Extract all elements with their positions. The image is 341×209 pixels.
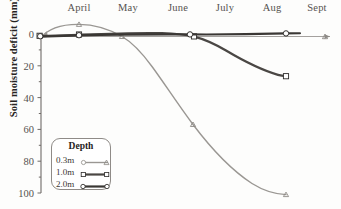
series-markers-0.3m (76, 22, 327, 197)
legend-title: Depth (52, 141, 110, 151)
y-tick-label-100: 100 (10, 188, 34, 199)
x-tick-label-june: June (168, 2, 188, 13)
y-tick-label-20: 20 (16, 60, 34, 71)
soil-moisture-deficit-chart: April May June July Aug Sept 0 20 40 60 … (0, 0, 341, 209)
legend-label-0.3m: 0.3m (56, 155, 80, 165)
series-line-1.0m (40, 33, 286, 76)
y-tick-label-0: 0 (16, 29, 34, 40)
legend-label-2.0m: 2.0m (56, 179, 80, 189)
x-tick-label-may: May (118, 2, 138, 13)
legend-swatch-0.3m (80, 154, 110, 165)
x-tick-label-april: April (67, 2, 90, 13)
legend-swatch-2.0m (80, 178, 110, 189)
legend-swatch-1.0m (80, 166, 110, 177)
legend-item-2.0m[interactable]: 2.0m (56, 178, 110, 189)
legend-label-1.0m: 1.0m (56, 167, 80, 177)
chart-legend: Depth 0.3m 1.0m 2.0m (51, 138, 111, 190)
legend-item-1.0m[interactable]: 1.0m (56, 166, 110, 177)
y-axis-title: Soil moisture deficit (mm) (8, 0, 19, 123)
y-tick-label-60: 60 (16, 124, 34, 135)
x-tick-label-july: July (216, 2, 234, 13)
legend-item-0.3m[interactable]: 0.3m (56, 154, 110, 165)
y-tick-label-80: 80 (16, 156, 34, 167)
series-markers-1.0m (37, 32, 289, 79)
x-tick-label-sept: Sept (307, 2, 326, 13)
x-tick-label-aug: Aug (263, 2, 282, 13)
y-tick-label-40: 40 (16, 92, 34, 103)
